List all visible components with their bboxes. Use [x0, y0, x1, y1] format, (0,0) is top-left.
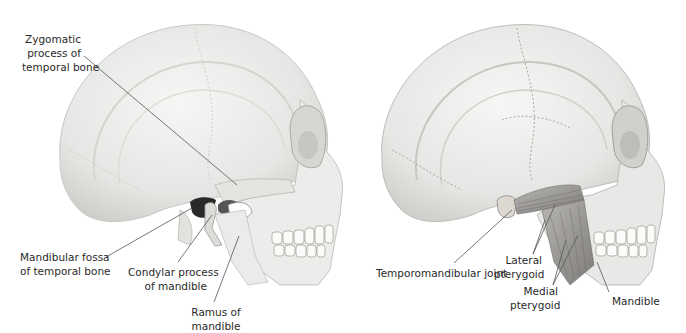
label-line: temporal bone: [22, 60, 81, 74]
label-lateral-pterygoid: Lateral pterygoid: [494, 253, 542, 281]
label-zygomatic-process: Zygomatic process of temporal bone: [22, 32, 81, 74]
label-line: Temporomandibular joint: [376, 266, 507, 280]
label-line: mandible: [186, 319, 246, 333]
label-mandibular-fossa: Mandibular fossa of temporal bone: [20, 250, 102, 278]
label-line: process of: [22, 46, 81, 60]
label-condylar-process: Condylar process of mandible: [128, 265, 207, 293]
label-line: Condylar process: [128, 265, 207, 279]
label-mandible: Mandible: [612, 294, 660, 308]
label-ramus-of-mandible: Ramus of mandible: [186, 305, 246, 333]
label-line: Mandible: [612, 294, 660, 308]
label-line: Medial: [510, 284, 558, 298]
label-line: pterygoid: [494, 267, 542, 281]
label-line: Ramus of: [186, 305, 246, 319]
label-line: Zygomatic: [22, 32, 81, 46]
label-line: Mandibular fossa: [20, 250, 102, 264]
label-line: of temporal bone: [20, 264, 102, 278]
label-line: of mandible: [128, 279, 207, 293]
label-line: pterygoid: [510, 298, 558, 312]
label-line: Lateral: [494, 253, 542, 267]
label-temporomandibular-joint: Temporomandibular joint: [376, 266, 507, 280]
label-medial-pterygoid: Medial pterygoid: [510, 284, 558, 312]
